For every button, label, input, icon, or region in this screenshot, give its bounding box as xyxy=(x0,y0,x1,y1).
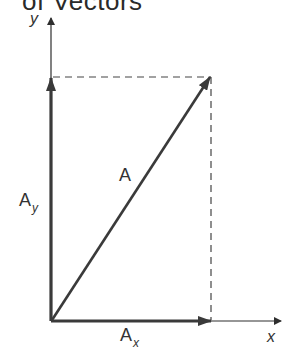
resultant-label: A xyxy=(119,165,131,186)
y-axis-label: y xyxy=(30,10,38,28)
x-component-label: Ax xyxy=(120,325,138,346)
y-component-label-text: A xyxy=(19,190,31,210)
y-component-subscript: y xyxy=(32,201,38,215)
x-component-label-text: A xyxy=(120,325,132,345)
vector-diagram xyxy=(0,0,294,361)
x-component-subscript: x xyxy=(133,336,139,350)
resultant-label-text: A xyxy=(119,165,131,185)
resultant-vector xyxy=(52,77,210,320)
y-component-label: Ay xyxy=(19,190,37,211)
x-axis-label: x xyxy=(267,328,275,346)
